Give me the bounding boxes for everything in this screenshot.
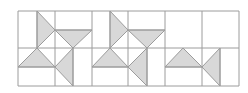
triangle-pattern-diagram xyxy=(0,0,248,93)
